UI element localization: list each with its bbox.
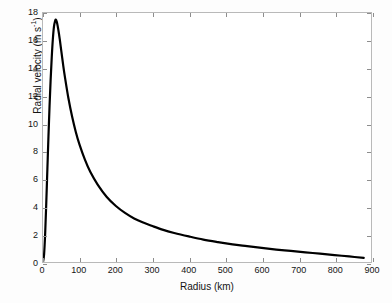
y-tick-label: 8 (16, 147, 38, 156)
x-tick-mark (153, 258, 154, 262)
y-tick-label: 14 (16, 64, 38, 73)
radial-velocity-curve (43, 13, 371, 262)
y-tick-mark (43, 236, 47, 237)
x-axis-title: Radius (km) (42, 281, 372, 292)
y-tick-mark-right (367, 208, 371, 209)
y-tick-label: 2 (16, 231, 38, 240)
x-tick-mark (190, 258, 191, 262)
y-axis-title-close: ) (32, 17, 43, 20)
y-tick-mark (43, 69, 47, 70)
x-tick-label: 500 (205, 265, 245, 276)
x-tick-mark-top (153, 13, 154, 17)
y-tick-mark (43, 152, 47, 153)
x-tick-mark-top (300, 13, 301, 17)
x-tick-mark-top (116, 13, 117, 17)
x-tick-mark-top (373, 13, 374, 17)
x-tick-label: 800 (315, 265, 355, 276)
x-tick-mark (336, 258, 337, 262)
y-tick-label: 10 (16, 120, 38, 129)
y-tick-label: 12 (16, 92, 38, 101)
plot-area (42, 12, 372, 263)
y-tick-mark-right (367, 13, 371, 14)
x-tick-label: 900 (352, 265, 392, 276)
y-tick-mark (43, 180, 47, 181)
y-tick-mark-right (367, 152, 371, 153)
y-tick-label: 4 (16, 203, 38, 212)
y-tick-mark-right (367, 97, 371, 98)
y-tick-label: 18 (16, 8, 38, 17)
curve-path (43, 20, 364, 262)
x-tick-label: 300 (132, 265, 172, 276)
y-tick-mark (43, 125, 47, 126)
y-tick-mark (43, 41, 47, 42)
y-axis-title-exponent: -1 (30, 21, 37, 27)
y-tick-label: 6 (16, 175, 38, 184)
x-tick-mark-top (226, 13, 227, 17)
x-tick-label: 0 (22, 265, 62, 276)
figure-canvas: Radial velocity (m s-1) 024681012141618 … (0, 0, 392, 303)
y-tick-mark (43, 208, 47, 209)
x-tick-mark (116, 258, 117, 262)
x-tick-label: 200 (95, 265, 135, 276)
y-tick-mark-right (367, 41, 371, 42)
x-tick-label: 100 (59, 265, 99, 276)
x-tick-mark-top (190, 13, 191, 17)
y-tick-mark-right (367, 236, 371, 237)
x-tick-label: 700 (279, 265, 319, 276)
y-tick-mark (43, 13, 47, 14)
x-tick-mark (300, 258, 301, 262)
y-tick-label: 16 (16, 36, 38, 45)
x-tick-mark (263, 258, 264, 262)
y-tick-mark-right (367, 125, 371, 126)
y-axis-title: Radial velocity (m s-1) (32, 0, 43, 161)
x-tick-label: 400 (169, 265, 209, 276)
x-tick-mark (226, 258, 227, 262)
x-tick-mark (43, 258, 44, 262)
x-tick-mark (80, 258, 81, 262)
y-tick-mark-right (367, 180, 371, 181)
y-tick-mark (43, 97, 47, 98)
x-tick-label: 600 (242, 265, 282, 276)
x-tick-mark-top (80, 13, 81, 17)
x-tick-mark-top (263, 13, 264, 17)
x-tick-mark-top (336, 13, 337, 17)
y-tick-mark-right (367, 69, 371, 70)
x-tick-mark (373, 258, 374, 262)
